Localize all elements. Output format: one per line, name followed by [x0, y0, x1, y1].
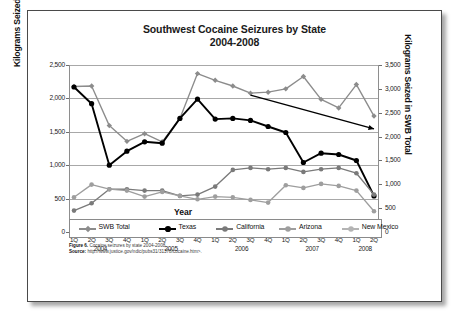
- legend-label: California: [236, 223, 264, 230]
- y-tick-label-right: 500: [385, 204, 419, 211]
- data-point: [107, 187, 112, 192]
- figure-caption: Figure 6. Cocaine seizures by state 2004…: [69, 243, 399, 254]
- data-point: [231, 195, 236, 200]
- data-point: [354, 171, 359, 176]
- legend-marker-circle: [221, 225, 229, 233]
- series-line: [74, 168, 374, 211]
- series-arizona: [72, 182, 377, 214]
- y-tick-mark-right: [379, 89, 382, 90]
- data-point: [195, 197, 200, 202]
- data-point: [125, 188, 130, 193]
- screenshot-root: Southwest Cocaine Seizures by State 2004…: [0, 0, 471, 323]
- legend-marker-diamond: [84, 225, 92, 233]
- data-point: [195, 192, 200, 197]
- y-tick-label-left: 0: [31, 228, 65, 235]
- data-point: [248, 166, 253, 171]
- legend-label: Texas: [179, 223, 197, 230]
- data-point: [301, 170, 306, 175]
- series-swb-total: [71, 71, 376, 145]
- caption-label: Figure 6.: [69, 243, 88, 248]
- data-point: [230, 116, 235, 121]
- data-point: [265, 89, 270, 94]
- data-point: [283, 130, 288, 135]
- y-tick-label-right: 1,500: [385, 156, 419, 163]
- data-point: [142, 194, 147, 199]
- y-tick-label-left: 2,000: [31, 94, 65, 101]
- data-point: [160, 141, 165, 146]
- data-point: [195, 97, 200, 102]
- y-tick-label-right: 3,000: [385, 85, 419, 92]
- data-point: [354, 188, 359, 193]
- data-point: [336, 166, 341, 171]
- data-point: [354, 158, 359, 163]
- data-point: [89, 83, 94, 88]
- y-tick-mark-right: [379, 208, 382, 209]
- data-point: [213, 184, 218, 189]
- data-point: [248, 198, 253, 203]
- y-tick-label-left: 1,000: [31, 161, 65, 168]
- y-axis-label-right: Kilograms Seized in SWB Total: [403, 11, 413, 178]
- data-point: [89, 201, 94, 206]
- y-tick-mark-right: [379, 184, 382, 185]
- data-point: [336, 152, 341, 157]
- data-point: [284, 166, 289, 171]
- data-point: [107, 163, 112, 168]
- y-tick-label-left: 1,500: [31, 128, 65, 135]
- data-point: [301, 160, 306, 165]
- series-texas: [71, 84, 376, 198]
- data-point: [266, 167, 271, 172]
- y-tick-label-right: 2,500: [385, 109, 419, 116]
- data-point: [124, 149, 129, 154]
- data-point: [230, 83, 235, 88]
- data-point: [301, 186, 306, 191]
- data-point: [142, 139, 147, 144]
- data-point: [212, 78, 217, 83]
- legend-marker-circle: [347, 225, 355, 233]
- data-point: [160, 190, 165, 195]
- data-point: [319, 151, 324, 156]
- figure-card: Southwest Cocaine Seizures by State 2004…: [27, 10, 442, 302]
- data-point: [372, 192, 377, 197]
- legend-marker-circle: [284, 225, 292, 233]
- legend-marker-circle: [164, 225, 172, 233]
- legend-label: New Mexico: [362, 223, 399, 230]
- source-text: http://www.justice.gov/ndic/pubs31/31378…: [87, 249, 201, 254]
- chart-legend: SWB TotalTexasCaliforniaArizonaNew Mexic…: [69, 219, 382, 238]
- data-point: [142, 188, 147, 193]
- data-point: [266, 200, 271, 205]
- y-tick-mark-right: [379, 65, 382, 66]
- data-point: [213, 117, 218, 122]
- data-point: [89, 182, 94, 187]
- chart-plot-area: 05001,0001,5002,0002,50005001,0001,5002,…: [69, 65, 379, 232]
- data-point: [71, 84, 76, 89]
- data-point: [178, 194, 183, 199]
- y-axis-label-left: Kilograms Seized Per State: [12, 0, 22, 89]
- caption-text: Cocaine seizures by state 2004-2008.: [89, 243, 166, 248]
- data-point: [372, 209, 377, 214]
- series-line: [74, 74, 374, 142]
- y-tick-mark-right: [379, 113, 382, 114]
- data-point: [142, 131, 147, 136]
- y-tick-label-right: 3,500: [385, 61, 419, 68]
- data-point: [231, 168, 236, 173]
- series-line: [74, 184, 374, 211]
- data-point: [319, 167, 324, 172]
- page-title: Southwest Cocaine Seizures by State 2004…: [28, 23, 441, 48]
- y-tick-mark-right: [379, 137, 382, 138]
- series-layer: [69, 65, 379, 232]
- y-tick-label-right: 2,000: [385, 133, 419, 140]
- y-tick-label-right: 1,000: [385, 180, 419, 187]
- chart-title-line-2: 2004-2008: [28, 36, 441, 49]
- data-point: [319, 182, 324, 187]
- data-point: [248, 118, 253, 123]
- y-tick-label-left: 500: [31, 195, 65, 202]
- chart-title-line-1: Southwest Cocaine Seizures by State: [28, 23, 441, 36]
- data-point: [336, 184, 341, 189]
- data-point: [72, 195, 77, 200]
- source-label: Source:: [69, 249, 86, 254]
- data-point: [284, 183, 289, 188]
- data-point: [213, 194, 218, 199]
- y-tick-label-left: 2,500: [31, 61, 65, 68]
- data-point: [266, 124, 271, 129]
- chart-canvas: 05001,0001,5002,0002,50005001,0001,5002,…: [69, 65, 379, 232]
